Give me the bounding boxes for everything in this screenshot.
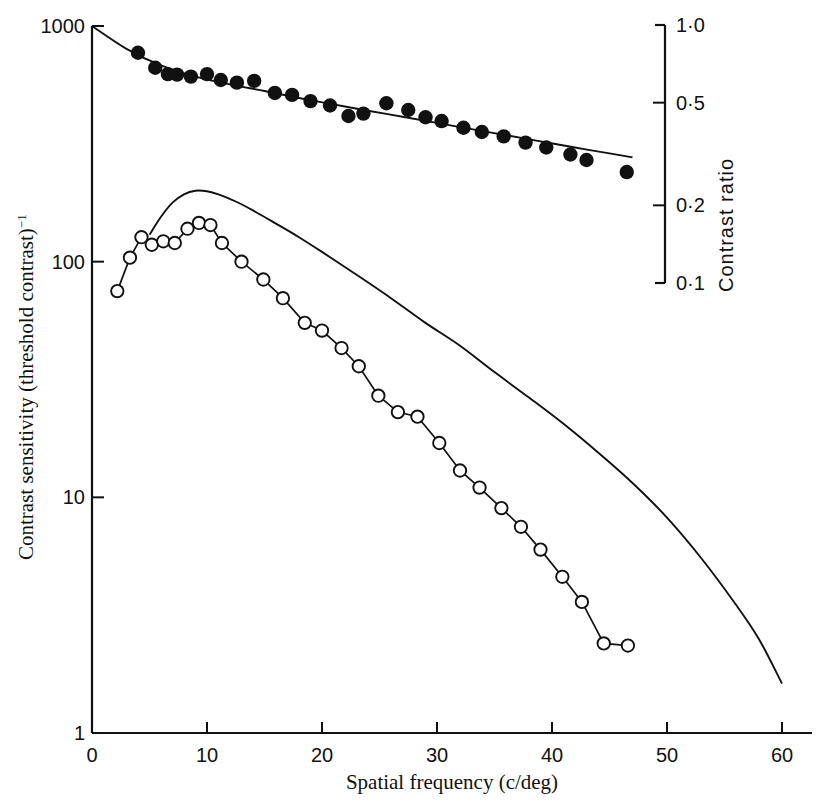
filled-circle-marker [579,153,593,167]
open-circle-marker [124,251,136,263]
open-circle-marker [556,571,568,583]
figure-container: 1000100101 0102030405060 1·00·50·20·1 [0,0,817,804]
filled-circle-marker [131,46,145,60]
filled-circle-marker [401,103,415,117]
x-tick-label: 20 [311,744,333,766]
open-circle-marker [169,237,181,249]
filled-circle-marker [497,129,511,143]
open-circle-marker [257,273,269,285]
open-circle-marker [216,237,228,249]
filled-circle-marker [323,98,337,112]
y-axis-right-title: Contrast ratio [715,158,737,292]
open-circle-marker [277,292,289,304]
y-axis-left-title-exponent: −1 [14,214,29,228]
x-tick-label: 60 [771,744,793,766]
y-axis-left-tick-labels: 1000100101 [41,15,86,744]
open-circle-marker [181,223,193,235]
open-circle-marker [193,217,205,229]
axis-titles: Spatial frequency (c/deg) Contrast sensi… [14,158,737,794]
y-tick-label-right: 0·5 [676,92,705,114]
x-axis-ticks [207,722,782,733]
open-circle-marker [392,406,404,418]
filled-circle-marker [303,94,317,108]
y-axis-left-ticks [92,26,104,497]
y-tick-label-right: 1·0 [676,14,705,36]
filled-circle-marker [539,140,553,154]
filled-circle-marker [148,61,162,75]
open-circle-marker [576,596,588,608]
y-tick-label-left: 1 [74,722,85,744]
filled-circle-marker [418,110,432,124]
open-circle-marker [111,285,123,297]
filled-circle-marker [620,165,634,179]
series-open-circles [111,217,634,652]
filled-circle-marker [268,86,282,100]
open-circle-marker [495,502,507,514]
x-tick-label: 40 [541,744,563,766]
open-circle-marker [157,235,169,247]
y-tick-label-left: 10 [63,486,85,508]
x-axis-tick-labels: 0102030405060 [86,744,793,766]
filled-circle-marker [230,75,244,89]
open-circle-marker [411,410,423,422]
x-axis-title: Spatial frequency (c/deg) [346,770,558,794]
y-tick-label-left: 1000 [41,15,86,37]
contrast-sensitivity-chart: 1000100101 0102030405060 1·00·50·20·1 [0,0,817,804]
open-circle-marker [454,464,466,476]
filled-circle-marker [379,96,393,110]
y-axis-right: 1·00·50·20·1 [653,14,705,294]
open-circle-marker [515,521,527,533]
filled-circle-marker [563,147,577,161]
open-circle-markers [111,217,634,652]
y-axis-left-title: Contrast sensitivity (threshold contrast… [14,214,38,560]
open-circle-marker [353,360,365,372]
y-tick-label-left: 100 [52,251,85,273]
filled-circle-marker [247,74,261,88]
open-circle-marker [433,437,445,449]
y-axis-right-ticks [653,103,665,206]
open-circle-marker [299,317,311,329]
filled-circle-marker [285,88,299,102]
open-circle-marker [146,239,158,251]
x-axis: 0102030405060 [86,722,812,766]
filled-circle-marker [214,73,228,87]
y-axis-left-title-main: Contrast sensitivity (threshold contrast… [14,228,38,560]
y-axis-left: 1000100101 [41,15,105,744]
open-circle-marker [335,342,347,354]
open-circle-marker [204,219,216,231]
filled-circle-marker [456,121,470,135]
open-circle-marker [534,543,546,555]
open-circle-marker [316,324,328,336]
filled-circle-marker [200,67,214,81]
open-circle-marker [235,255,247,267]
open-circle-marker [372,389,384,401]
y-tick-label-right: 0·2 [676,194,705,216]
filled-circle-marker [518,135,532,149]
filled-circle-marker [170,67,184,81]
filled-circle-marker [184,69,198,83]
open-circle-marker [622,639,634,651]
filled-circle-marker [475,125,489,139]
open-circle-marker [598,637,610,649]
x-tick-label: 10 [196,744,218,766]
y-tick-label-right: 0·1 [676,272,705,294]
x-tick-label: 50 [656,744,678,766]
upper-fitted-line [92,26,633,157]
filled-circle-marker [434,114,448,128]
filled-circle-marker [356,106,370,120]
filled-circle-marker [341,109,355,123]
y-axis-right-tick-labels: 1·00·50·20·1 [676,14,705,294]
x-tick-label: 0 [86,744,97,766]
open-circle-marker [473,481,485,493]
x-tick-label: 30 [426,744,448,766]
